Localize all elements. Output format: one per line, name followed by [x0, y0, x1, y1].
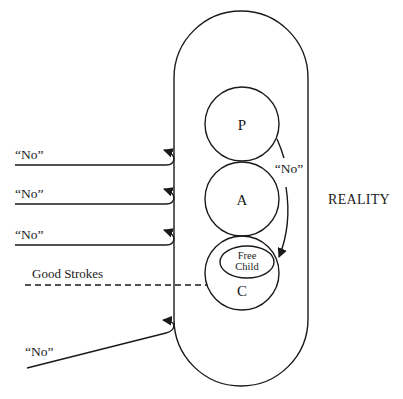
parent-label: P [238, 117, 246, 133]
external-no-label: “No” [15, 147, 43, 162]
ego-state-diagram: P A C Free Child “No” REALITY “No” “No” … [0, 0, 403, 399]
inner-no-arrow-lower [279, 187, 288, 257]
external-no-label: “No” [15, 227, 43, 242]
external-no-message-3: “No” [15, 227, 174, 245]
external-no-label: “No” [25, 344, 53, 359]
good-strokes-label: Good Strokes [32, 266, 103, 281]
reality-label: REALITY [328, 192, 390, 207]
free-child-label-line2: Child [235, 261, 259, 272]
external-no-message-1: “No” [15, 147, 174, 165]
external-no-message-2: “No” [15, 186, 174, 204]
free-child-label-line1: Free [238, 250, 257, 261]
external-no-message-4: “No” [25, 320, 174, 368]
adult-label: A [237, 192, 248, 208]
inner-no-label: “No” [275, 161, 303, 176]
external-no-label: “No” [15, 186, 43, 201]
child-label: C [237, 283, 247, 299]
inner-no-arrow-upper [277, 139, 284, 158]
